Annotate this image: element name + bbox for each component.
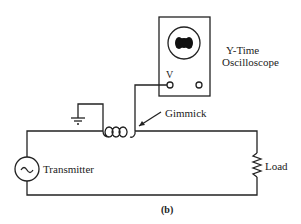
bottom-wire (27, 177, 257, 195)
oscilloscope-terminal-ground (196, 82, 202, 88)
sine-icon (21, 168, 33, 173)
oscilloscope-label-1: Y-Time (226, 44, 259, 56)
transmitter-label: Transmitter (43, 163, 94, 175)
gimmick-label: Gimmick (165, 107, 207, 119)
resistor-icon (253, 153, 261, 177)
figure-caption: (b) (161, 204, 173, 216)
top-left-wire (27, 131, 103, 157)
scope-lead (135, 85, 167, 131)
circuit-schematic (0, 0, 301, 224)
load-label: Load (265, 160, 288, 172)
terminal-v-label: V (166, 69, 173, 81)
top-right-wire (135, 131, 257, 153)
oscilloscope-label-2: Oscilloscope (222, 56, 279, 68)
coil-icon (103, 127, 135, 137)
circuit-diagram: Y-Time Oscilloscope V Gimmick Transmitte… (0, 0, 301, 224)
oscilloscope-terminal-v (167, 82, 173, 88)
